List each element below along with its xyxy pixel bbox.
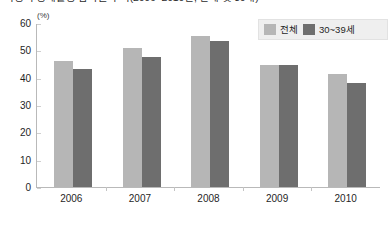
clipped-caption-text: 여성의 경제활동 참가율 추이(2006~2010년, 전체 및 30대) [4, 0, 304, 3]
bar-group: 2007 [106, 24, 175, 187]
bar-2008-total [191, 36, 210, 187]
x-axis-tick-label: 2009 [243, 193, 312, 204]
bar-group: 2006 [37, 24, 106, 187]
bar-2010-total [328, 74, 347, 187]
x-axis-tick-label: 2007 [106, 193, 175, 204]
bar-groups: 20062007200820092010 [37, 24, 380, 187]
x-axis-tick-label: 2010 [311, 193, 380, 204]
bar-group: 2008 [174, 24, 243, 187]
x-axis-line [36, 187, 380, 188]
bar-2007-total [123, 48, 142, 187]
bar-2010-age-30-39 [347, 83, 366, 187]
y-axis-tick-label: 20 [20, 128, 31, 138]
y-axis-tick-label: 10 [20, 156, 31, 166]
bar-2007-age-30-39 [142, 57, 161, 187]
y-axis-tick-label: 50 [20, 46, 31, 56]
chart-screenshot: 여성의 경제활동 참가율 추이(2006~2010년, 전체 및 30대) (%… [0, 0, 392, 229]
bar-2008-age-30-39 [210, 41, 229, 187]
bar-group: 2009 [243, 24, 312, 187]
x-axis-tick-label: 2008 [174, 193, 243, 204]
plot-area: 0102030405060 20062007200820092010 [36, 24, 380, 188]
bar-2006-age-30-39 [73, 69, 92, 187]
y-axis-tick-label: 30 [20, 101, 31, 111]
x-axis-tick-label: 2006 [37, 193, 106, 204]
y-axis-tick-label: 40 [20, 74, 31, 84]
x-axis-tick-mark [106, 187, 107, 191]
x-axis-tick-mark [243, 187, 244, 191]
x-axis-tick-mark [311, 187, 312, 191]
bar-2009-age-30-39 [279, 65, 298, 187]
y-axis-unit-label: (%) [37, 11, 49, 20]
y-axis-tick-mark [37, 188, 41, 189]
x-axis-tick-mark [174, 187, 175, 191]
bar-group: 2010 [311, 24, 380, 187]
bar-2006-total [54, 61, 73, 187]
bar-2009-total [260, 65, 279, 187]
y-axis-tick-label: 0 [25, 183, 31, 193]
y-axis-tick-label: 60 [20, 19, 31, 29]
